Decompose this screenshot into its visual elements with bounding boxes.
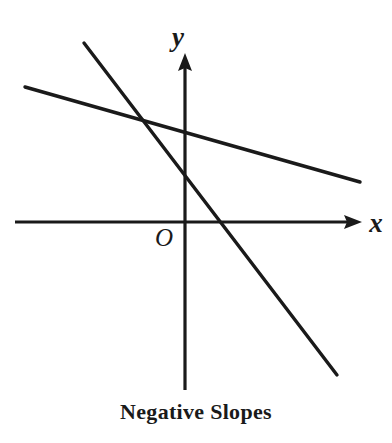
y-axis-label: y <box>169 22 185 52</box>
shallow-negative-line <box>25 87 360 182</box>
x-axis-label: x <box>368 208 383 238</box>
figure-caption: Negative Slopes <box>0 398 392 426</box>
coordinate-plot: y x O <box>0 0 392 443</box>
steep-negative-line <box>84 43 337 375</box>
figure-root: y x O Negative Slopes <box>0 0 392 443</box>
origin-label: O <box>155 224 173 251</box>
